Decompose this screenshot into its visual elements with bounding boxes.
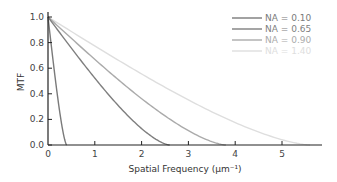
y-tick-label: 0.0	[30, 140, 45, 150]
y-tick-label: 1.0	[30, 12, 45, 22]
x-tick-label: 4	[232, 149, 238, 159]
series-line	[48, 17, 170, 145]
y-tick-label: 0.6	[30, 63, 45, 73]
x-tick-label: 2	[139, 149, 145, 159]
legend-label: NA = 0.90	[265, 35, 311, 45]
series-line	[48, 17, 67, 145]
y-tick-label: 0.8	[30, 38, 45, 48]
x-tick-label: 0	[45, 149, 51, 159]
legend-label: NA = 0.10	[265, 13, 311, 23]
legend-label: NA = 1.40	[265, 46, 311, 56]
y-tick-label: 0.4	[30, 89, 45, 99]
x-tick-label: 1	[92, 149, 98, 159]
legend: NA = 0.10NA = 0.65NA = 0.90NA = 1.40	[232, 13, 311, 56]
series-line	[48, 17, 226, 145]
x-axis-title: Spatial Frequency (μm⁻¹)	[128, 164, 241, 174]
y-axis-title: MTF	[16, 73, 26, 91]
y-tick-label: 0.2	[30, 114, 44, 124]
y-ticks: 0.00.20.40.60.81.0	[30, 12, 52, 150]
mtf-chart: 0.00.20.40.60.81.0 012345 MTF Spatial Fr…	[0, 0, 337, 182]
legend-label: NA = 0.65	[265, 24, 311, 34]
x-tick-label: 3	[186, 149, 192, 159]
x-tick-label: 5	[279, 149, 285, 159]
